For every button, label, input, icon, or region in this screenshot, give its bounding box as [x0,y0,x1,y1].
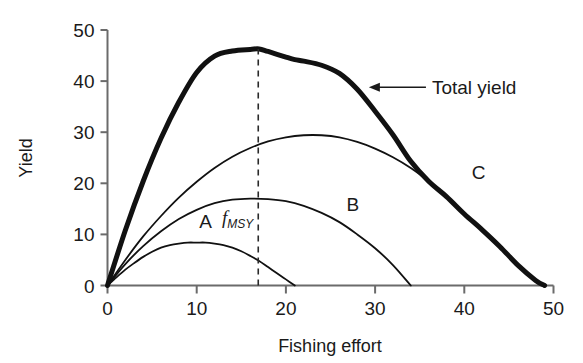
y-tick-label: 40 [73,71,94,92]
y-tick-label: 20 [73,173,94,194]
series-label-a: A [199,211,212,232]
fmsy-label-subscript: MSY [227,217,254,231]
x-tick-label: 30 [365,298,386,319]
x-tick-label: 10 [186,298,207,319]
y-tick-label: 0 [84,276,95,297]
y-tick-label: 50 [73,20,94,41]
x-tick-label: 50 [543,298,564,319]
x-tick-label: 0 [102,298,113,319]
y-tick-label: 30 [73,122,94,143]
yield-vs-fishing-effort-chart: 01020304050 01020304050 fMSY Total yield… [0,0,583,363]
series-label-c: C [472,162,486,183]
total-yield-label: Total yield [432,77,516,98]
y-axis-title: Yield [16,138,36,177]
chart-canvas: 01020304050 01020304050 fMSY Total yield… [0,0,583,363]
x-tick-label: 20 [275,298,296,319]
x-axis-title: Fishing effort [278,336,382,356]
x-tick-label: 40 [454,298,475,319]
series-label-b: B [346,194,359,215]
y-tick-label: 10 [73,224,94,245]
